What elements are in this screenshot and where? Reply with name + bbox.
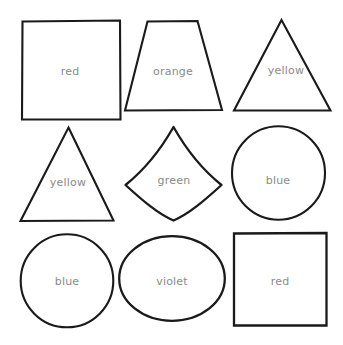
triangle-outline-icon xyxy=(16,124,118,226)
shape-cell-triangle-yellow-top xyxy=(230,17,334,123)
triangle-outline-icon xyxy=(230,17,334,123)
circle-outline-icon xyxy=(18,231,117,331)
shape-cell-circle-blue-bottom xyxy=(18,231,117,331)
shape-cell-square-red xyxy=(19,18,123,123)
shapes-worksheet: red orange yellow yellow green blue xyxy=(0,0,343,345)
shape-cell-square-red-bottom xyxy=(230,229,330,329)
shape-cell-reuleaux-green xyxy=(120,123,227,226)
shape-cell-trapezoid-orange xyxy=(120,18,226,123)
trapezoid-outline-icon xyxy=(120,18,226,123)
shape-cell-ellipse-violet xyxy=(116,233,229,324)
circle-outline-icon xyxy=(229,123,329,223)
shape-cell-triangle-yellow-mid xyxy=(16,124,118,226)
reuleaux-triangle-outline-icon xyxy=(120,123,227,226)
ellipse-outline-icon xyxy=(116,233,229,324)
square-outline-icon xyxy=(230,229,330,329)
shape-cell-circle-blue-mid xyxy=(229,123,329,223)
square-outline-icon xyxy=(19,18,123,123)
